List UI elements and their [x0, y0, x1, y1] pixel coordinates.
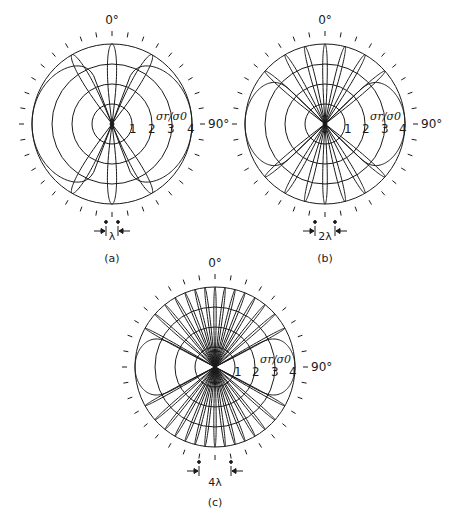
ring-label-2: 2 [148, 122, 156, 136]
angle-tick [233, 108, 238, 109]
angle-label-90deg: 90° [208, 117, 229, 131]
angle-tick [96, 32, 97, 37]
angle-tick [66, 200, 69, 204]
angle-tick [355, 37, 357, 42]
angle-tick [265, 191, 268, 195]
angle-tick [309, 32, 310, 37]
angle-tick [302, 351, 307, 352]
ring-label-3: 3 [271, 365, 279, 379]
panel-caption-a: (a) [104, 252, 119, 265]
angle-tick [31, 78, 35, 81]
polar-diagram-b: 0° 90° 1 2 3 4 σr/σ0 2λ (b) [232, 13, 442, 265]
angle-tick [156, 200, 159, 204]
angle-tick [392, 181, 396, 184]
angle-tick [369, 200, 372, 204]
angle-tick [199, 275, 200, 280]
angle-tick [127, 211, 128, 216]
angle-tick [183, 450, 185, 455]
angle-tick [25, 92, 30, 94]
angle-tick [244, 78, 248, 81]
angle-tick [179, 64, 183, 67]
angle-tick [293, 207, 295, 212]
angle-tick [188, 168, 192, 171]
angle-tick [401, 78, 405, 81]
angle-tick [340, 211, 341, 216]
angle-tick [408, 92, 413, 94]
angle-tick [279, 200, 282, 204]
angle-tick [340, 32, 341, 37]
angle-tick [41, 64, 45, 67]
angle-tick [282, 424, 286, 427]
angle-tick [412, 108, 417, 109]
angle-label-90deg: 90° [421, 117, 442, 131]
angle-tick [265, 53, 268, 57]
angle-tick [254, 181, 258, 184]
angle-tick [309, 211, 310, 216]
origin-dot [110, 122, 114, 126]
angle-tick [123, 382, 128, 383]
angle-tick [245, 450, 247, 455]
angle-tick [155, 296, 158, 300]
angle-tick [238, 154, 243, 156]
spacing-dot [314, 221, 317, 224]
angle-tick [412, 139, 417, 140]
angle-tick [245, 280, 247, 285]
angle-tick [382, 53, 385, 57]
ratio-label: σr/σ0 [370, 110, 401, 123]
angle-label-0deg: 0° [208, 256, 222, 270]
angle-tick [134, 321, 138, 324]
angle-tick [169, 286, 172, 290]
pattern-geometry [19, 31, 205, 236]
angle-tick [382, 191, 385, 195]
ring-label-4: 4 [289, 365, 297, 379]
angle-tick [195, 154, 200, 156]
spacing-label: λ [109, 230, 116, 243]
angle-tick [183, 280, 185, 285]
angle-tick [259, 443, 262, 447]
angle-tick [244, 168, 248, 171]
angle-tick [127, 32, 128, 37]
angle-tick [144, 424, 148, 427]
angle-tick [134, 411, 138, 414]
angle-tick [144, 307, 148, 310]
polar-diagram-a: 0° 90° 1 2 3 4 σr/σ0 λ (a) [19, 13, 229, 265]
angle-tick [169, 443, 172, 447]
angle-tick [66, 43, 69, 47]
angle-tick [169, 191, 172, 195]
angle-tick [355, 207, 357, 212]
spacing-arrow-head [336, 229, 340, 234]
ring-label-3: 3 [381, 122, 389, 136]
angle-tick [302, 382, 307, 383]
ring-label-4: 4 [187, 122, 195, 136]
angle-tick [155, 434, 158, 438]
pattern-geometry [122, 274, 308, 476]
angle-tick [169, 53, 172, 57]
angle-tick [369, 43, 372, 47]
angle-tick [199, 139, 204, 140]
angle-tick [298, 335, 303, 337]
angle-tick [230, 275, 231, 280]
angle-tick [230, 454, 231, 459]
angle-tick [254, 64, 258, 67]
spacing-dot [334, 221, 337, 224]
spacing-arrow-head [194, 469, 198, 474]
angle-tick [80, 207, 82, 212]
angle-tick [96, 211, 97, 216]
spacing-label: 4λ [208, 476, 222, 489]
angle-tick [401, 168, 405, 171]
angle-label-90deg: 90° [311, 360, 332, 374]
ring-label-2: 2 [252, 365, 260, 379]
spacing-arrow-head [119, 229, 123, 234]
angle-tick [195, 92, 200, 94]
ring-label-3: 3 [167, 122, 175, 136]
ratio-label: σr/σ0 [156, 110, 187, 123]
ratio-label: σr/σ0 [260, 353, 291, 366]
panel-caption-b: (b) [317, 252, 333, 265]
angle-tick [291, 321, 295, 324]
spacing-dot [105, 221, 108, 224]
angle-tick [142, 207, 144, 212]
spacing-dot [198, 461, 201, 464]
pattern-geometry [232, 31, 418, 236]
angle-tick [293, 37, 295, 42]
origin-dot [323, 122, 327, 126]
